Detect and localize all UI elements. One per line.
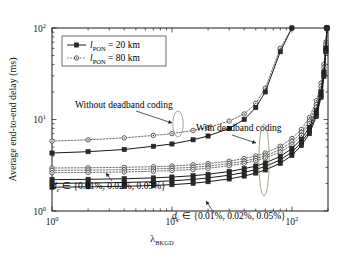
x-tick-label: 100	[46, 215, 59, 227]
series-marker-dot	[228, 165, 229, 166]
series-marker	[290, 153, 294, 157]
legend-marker-1-dot	[76, 57, 77, 58]
series-marker	[170, 183, 174, 187]
series-marker-dot	[171, 170, 172, 171]
series-marker-dot	[124, 137, 125, 138]
series-marker	[170, 179, 174, 183]
series-marker	[254, 105, 258, 109]
y-tick-label: 102	[33, 22, 46, 34]
annotation-without-deadband: Without deadband coding	[75, 100, 173, 110]
series-marker-dot	[309, 123, 310, 124]
series-marker	[314, 114, 318, 118]
series-marker-dot	[171, 133, 172, 134]
series-marker	[263, 168, 267, 172]
series-marker	[170, 142, 174, 146]
series-marker	[242, 117, 246, 121]
series-marker	[322, 74, 326, 78]
x-axis-label: λBKGD	[150, 233, 174, 246]
y-tick-label: 100	[33, 205, 46, 217]
y-tick-label: 101	[33, 113, 46, 125]
series-marker	[254, 171, 258, 175]
chart-plot: 100101102100101102Average end-to-end del…	[0, 0, 340, 273]
series-marker	[319, 95, 323, 99]
series-marker	[86, 150, 90, 154]
series-marker	[151, 144, 155, 148]
series-marker-dot	[291, 138, 292, 139]
series-marker-dot	[316, 100, 317, 101]
series-marker-dot	[280, 151, 281, 152]
annotation-with-deadband: With deadband coding	[196, 123, 282, 133]
series-marker-dot	[265, 157, 266, 158]
series-marker-dot	[153, 135, 154, 136]
series-marker	[324, 50, 328, 54]
series-marker-dot	[51, 140, 52, 141]
series-marker	[290, 26, 294, 30]
series-marker-dot	[243, 163, 244, 164]
series-marker-dot	[280, 146, 281, 147]
annotation-dc-upper: dc ∈ {0.01%, 0.02%, 0.05%}	[52, 181, 166, 193]
series-marker	[227, 177, 231, 181]
series-marker	[50, 151, 54, 155]
series-marker	[325, 26, 329, 30]
series-marker-dot	[255, 160, 256, 161]
series-marker-dot	[255, 103, 256, 104]
series-marker-dot	[301, 129, 302, 130]
series-marker	[307, 132, 311, 136]
series-marker-dot	[207, 168, 208, 169]
series-marker-dot	[291, 144, 292, 145]
series-marker-dot	[301, 135, 302, 136]
series-marker-dot	[192, 130, 193, 131]
figure-container: 100101102100101102Average end-to-end del…	[0, 0, 340, 273]
series-marker-dot	[309, 117, 310, 118]
series-marker-dot	[192, 169, 193, 170]
series-marker	[191, 138, 195, 142]
series-marker-dot	[87, 139, 88, 140]
series-marker-dot	[124, 171, 125, 172]
series-marker	[122, 147, 126, 151]
series-marker-dot	[228, 120, 229, 121]
series-marker	[263, 90, 267, 94]
legend-marker-0	[74, 43, 78, 47]
series-marker-dot	[265, 87, 266, 88]
series-marker-dot	[153, 171, 154, 172]
x-tick-label: 102	[286, 215, 299, 227]
series-marker	[191, 181, 195, 185]
series-marker	[299, 143, 303, 147]
series-marker-dot	[87, 172, 88, 173]
series-marker-dot	[243, 113, 244, 114]
series-marker	[206, 134, 210, 138]
series-marker-dot	[51, 172, 52, 173]
series-marker	[278, 161, 282, 165]
series-marker-dot	[280, 48, 281, 49]
series-marker	[278, 50, 282, 54]
y-axis-label: Average end-to-end delay (ms)	[7, 58, 19, 182]
annotation-dc-lower: dc ∈ {0.01%, 0.02%, 0.05%}	[172, 211, 286, 223]
series-marker	[242, 174, 246, 178]
series-marker	[206, 180, 210, 184]
